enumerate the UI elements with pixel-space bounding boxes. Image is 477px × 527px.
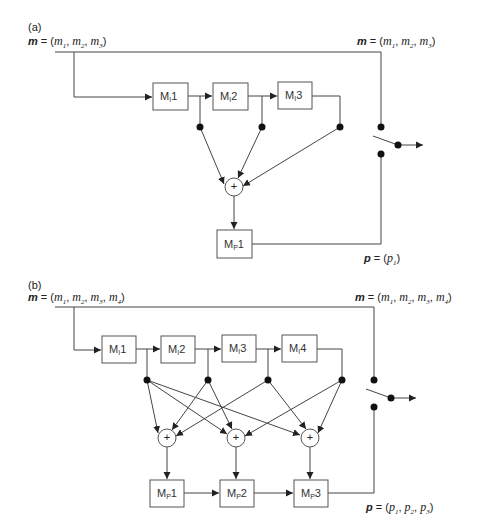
panel-b-predict-block-2: MP2	[220, 480, 254, 507]
panel-a-sum-node: +	[225, 178, 243, 196]
plus-icon: +	[307, 431, 313, 443]
junction-dot	[337, 124, 344, 131]
diagram-canvas: (a) m = (m1, m2, m3) m = (m1, m2, m3)	[0, 0, 477, 527]
switch-contact-dot	[378, 151, 385, 158]
panel-b-label: (b)	[28, 279, 41, 291]
svg-text:MI3: MI3	[285, 89, 302, 102]
svg-text:MI3: MI3	[229, 342, 246, 355]
panel-a-wires	[55, 52, 423, 244]
panel-b-input-block-2: MI2	[161, 336, 195, 363]
panel-b-predict-block-3: MP3	[294, 480, 328, 507]
panel-a-predict-block-1: MP1	[217, 230, 252, 258]
panel-a: (a) m = (m1, m2, m3) m = (m1, m2, m3)	[28, 21, 435, 267]
panel-b-input-label: m = (m1, m2, m3, m4)	[28, 290, 125, 306]
panel-a-input-block-3: MI3	[278, 82, 312, 109]
panel-a-output-label: p = (p1)	[363, 251, 400, 267]
panel-b-output-label: p = (p1, p2, p3)	[365, 500, 433, 516]
panel-b-input-block-3: MI3	[222, 335, 256, 362]
plus-icon: +	[233, 431, 239, 443]
junction-dot	[259, 124, 266, 131]
junction-dot	[265, 377, 272, 384]
panel-b-sum-node-3: +	[301, 429, 319, 447]
svg-text:MI2: MI2	[220, 90, 237, 103]
panel-b-predict-block-1: MP1	[150, 480, 184, 507]
panel-b: (b) m = (m1, m2, m3, m4) m = (m1, m2, m3…	[28, 279, 452, 516]
panel-b-switch-input-label: m = (m1, m2, m3, m4)	[355, 290, 452, 306]
panel-b-sum-node-1: +	[158, 429, 176, 447]
panel-a-label: (a)	[28, 21, 41, 33]
panel-a-input-block-1: MI1	[153, 83, 188, 110]
panel-a-input-label: m = (m1, m2, m3)	[28, 34, 106, 50]
svg-text:MI1: MI1	[160, 90, 177, 103]
svg-text:MI2: MI2	[168, 343, 185, 356]
switch-pivot-dot	[395, 142, 402, 149]
switch-contact-dot	[371, 404, 378, 411]
junction-dot	[197, 124, 204, 131]
junction-dot	[339, 377, 346, 384]
panel-b-junction-dots	[144, 377, 395, 411]
svg-text:MI1: MI1	[109, 343, 126, 356]
svg-text:MI4: MI4	[289, 342, 306, 355]
panel-b-input-block-1: MI1	[102, 336, 136, 363]
switch-contact-dot	[371, 377, 378, 384]
junction-dot	[205, 377, 212, 384]
junction-dot	[144, 377, 151, 384]
panel-b-sum-node-2: +	[227, 429, 245, 447]
panel-b-input-block-4: MI4	[282, 335, 317, 362]
plus-icon: +	[164, 431, 170, 443]
panel-a-input-block-2: MI2	[213, 83, 248, 110]
plus-icon: +	[231, 180, 237, 192]
panel-a-switch-input-label: m = (m1, m2, m3)	[357, 34, 435, 50]
switch-contact-dot	[378, 124, 385, 131]
switch-pivot-dot	[388, 395, 395, 402]
